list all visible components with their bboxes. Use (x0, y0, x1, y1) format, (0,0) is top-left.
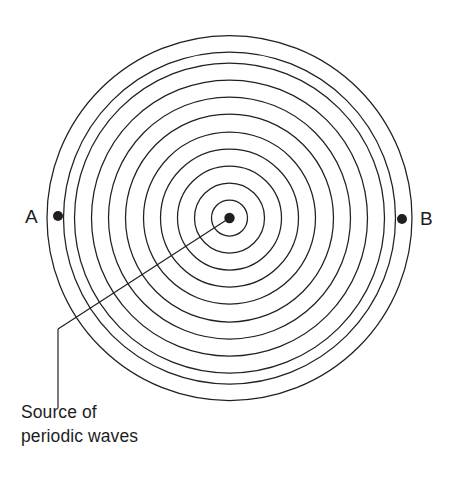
point-b-dot (397, 214, 407, 224)
source-caption: Source of periodic waves (21, 400, 138, 448)
source-caption-line-2: periodic waves (21, 424, 138, 448)
point-a-dot (53, 211, 63, 221)
source-point-dot (224, 213, 234, 223)
wave-diagram-figure: A B Source of periodic waves (0, 0, 450, 481)
point-b-label: B (420, 209, 433, 228)
source-caption-line-1: Source of (21, 400, 138, 424)
source-leader-line-diagonal (58, 218, 230, 329)
point-a-label: A (25, 207, 38, 226)
